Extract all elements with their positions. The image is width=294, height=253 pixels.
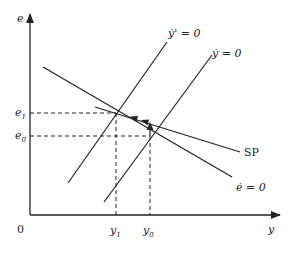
e1-label: e1 (15, 106, 26, 121)
ydot-zero-line (104, 55, 212, 202)
origin-label: 0 (17, 223, 24, 236)
ydot-zero-label: ẏ = 0 (211, 47, 241, 60)
phase-diagram: e y 0 e1 e0 y1 y0 ẏ' = 0 ẏ = 0 SP ė = 0 (0, 0, 294, 253)
svg-text:e0: e0 (15, 129, 27, 144)
y-axis-label: y (267, 223, 275, 236)
saddle-path-line (95, 107, 240, 152)
y1-label: y1 (109, 224, 121, 239)
svg-text:y0: y0 (142, 224, 154, 239)
y0-label: y0 (142, 224, 154, 239)
diagram-canvas: e y 0 e1 e0 y1 y0 ẏ' = 0 ẏ = 0 SP ė = 0 (0, 0, 294, 253)
e-axis-label: e (17, 12, 24, 25)
ydot-prime-zero-label: ẏ' = 0 (167, 27, 200, 40)
saddle-path-label: SP (244, 146, 260, 159)
e0-label: e0 (15, 129, 27, 144)
svg-text:e1: e1 (15, 106, 26, 121)
edot-zero-label: ė = 0 (236, 181, 266, 194)
svg-text:y1: y1 (109, 224, 121, 239)
